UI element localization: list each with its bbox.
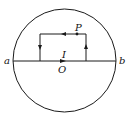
arrow-left-down-icon bbox=[38, 45, 42, 50]
point-p bbox=[76, 33, 79, 36]
label-p: P bbox=[74, 22, 82, 33]
label-b: b bbox=[119, 55, 125, 66]
diagram-canvas: P I O a b bbox=[0, 0, 129, 114]
arrow-right-up-icon bbox=[84, 44, 88, 49]
label-o: O bbox=[58, 64, 66, 75]
arrow-top-left-icon bbox=[61, 32, 66, 36]
label-a: a bbox=[4, 55, 10, 66]
label-i: I bbox=[61, 49, 67, 60]
